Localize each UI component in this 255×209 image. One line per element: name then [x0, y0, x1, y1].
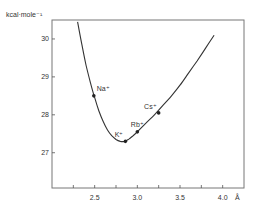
data-point	[157, 111, 161, 115]
x-tick-label: 4.0	[218, 194, 228, 201]
y-tick-label: 29	[41, 73, 49, 80]
data-point-label: Cs⁺	[144, 103, 157, 110]
x-tick-label: 3.0	[132, 194, 142, 201]
data-point-label: Rb⁺	[131, 121, 144, 128]
chart: 2.53.03.54.0 27282930 Na⁺K⁺Rb⁺Cs⁺ kcal·m…	[0, 0, 255, 209]
energy-curve	[78, 22, 215, 142]
y-axis-label: kcal·mole⁻¹	[6, 11, 43, 18]
data-point-label: Na⁺	[97, 85, 110, 92]
data-points: Na⁺K⁺Rb⁺Cs⁺	[92, 85, 160, 143]
x-axis-label: Å	[235, 193, 240, 201]
data-point	[136, 130, 140, 134]
data-point-label: K⁺	[115, 131, 124, 138]
data-point	[92, 94, 96, 98]
data-point	[124, 140, 128, 144]
x-tick-label: 2.5	[90, 194, 100, 201]
x-axis-ticks: 2.53.03.54.0	[73, 185, 227, 201]
x-tick-label: 3.5	[175, 194, 185, 201]
y-tick-label: 27	[41, 149, 49, 156]
y-tick-label: 28	[41, 111, 49, 118]
y-tick-label: 30	[41, 35, 49, 42]
y-axis-ticks: 27282930	[41, 35, 55, 156]
